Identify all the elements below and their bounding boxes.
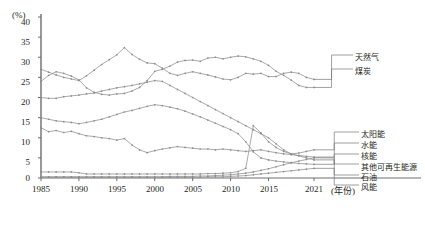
series-point xyxy=(161,81,163,83)
series-point xyxy=(177,89,179,91)
series-point xyxy=(207,176,209,178)
series-point xyxy=(177,146,179,148)
series-point xyxy=(283,73,285,75)
series-point xyxy=(86,75,88,77)
series-point xyxy=(146,152,148,154)
series-point xyxy=(78,79,80,81)
series-point xyxy=(215,56,217,58)
series-point xyxy=(252,58,254,60)
series-point xyxy=(192,113,194,115)
series-point xyxy=(154,173,156,175)
series-point xyxy=(48,97,50,99)
series-point xyxy=(108,116,110,118)
series-point xyxy=(101,90,103,92)
series-point xyxy=(161,68,163,70)
series-point xyxy=(268,172,270,174)
series-point xyxy=(222,78,224,80)
series-point xyxy=(275,143,277,145)
series-point xyxy=(146,80,148,82)
series-point xyxy=(124,93,126,95)
series-point xyxy=(169,73,171,75)
series-point xyxy=(230,174,232,176)
series-point xyxy=(93,120,95,122)
series-point xyxy=(169,106,171,108)
series-point xyxy=(260,173,262,175)
series-point xyxy=(161,148,163,150)
series-label-wind: 风能 xyxy=(361,181,377,192)
x-tick-1990: 1990 xyxy=(62,184,96,194)
series-point xyxy=(260,132,262,134)
series-point xyxy=(245,125,247,127)
series-point xyxy=(283,149,285,151)
series-point xyxy=(78,123,80,125)
series-point xyxy=(199,101,201,103)
series-line xyxy=(41,128,314,157)
series-point xyxy=(290,71,292,73)
series-point xyxy=(93,176,95,178)
series-point xyxy=(207,57,209,59)
series-point xyxy=(199,173,201,175)
series-point xyxy=(146,62,148,64)
series-point xyxy=(275,172,277,174)
series-point xyxy=(252,73,254,75)
series-point xyxy=(48,171,50,173)
series-point xyxy=(169,176,171,178)
series-point xyxy=(48,75,50,77)
series-point xyxy=(260,60,262,62)
series-point xyxy=(268,168,270,170)
y-tick-20: 20 xyxy=(8,97,30,107)
series-point xyxy=(93,69,95,71)
x-tick-2005: 2005 xyxy=(176,184,210,194)
series-point xyxy=(222,148,224,150)
series-point xyxy=(131,90,133,92)
series-point xyxy=(252,150,254,152)
legend-leader-line xyxy=(314,158,359,164)
series-point xyxy=(139,173,141,175)
series-point xyxy=(184,60,186,62)
series-point xyxy=(116,139,118,141)
series-point xyxy=(131,144,133,146)
series-point xyxy=(116,176,118,178)
series-point xyxy=(222,58,224,60)
series-point xyxy=(108,59,110,61)
series-point xyxy=(154,70,156,72)
series-point xyxy=(146,176,148,178)
x-tick-2000: 2000 xyxy=(138,184,172,194)
series-point xyxy=(192,176,194,178)
series-point xyxy=(55,171,57,173)
series-point xyxy=(252,171,254,173)
series-point xyxy=(237,150,239,152)
series-point xyxy=(252,174,254,176)
series-point xyxy=(245,175,247,177)
series-point xyxy=(306,157,308,159)
series-point xyxy=(131,54,133,56)
series-point xyxy=(222,172,224,174)
series-point xyxy=(154,150,156,152)
legend-leader-line xyxy=(314,154,359,164)
series-point xyxy=(40,127,42,129)
series-point xyxy=(298,73,300,75)
series-point xyxy=(63,171,65,173)
series-label-coal: 煤炭 xyxy=(355,65,371,76)
series-point xyxy=(298,155,300,157)
series-point xyxy=(306,168,308,170)
series-point xyxy=(268,64,270,66)
series-point xyxy=(275,166,277,168)
series-point xyxy=(139,58,141,60)
series-point xyxy=(177,75,179,77)
series-line xyxy=(41,126,314,174)
series-point xyxy=(215,149,217,151)
series-point xyxy=(290,162,292,164)
series-point xyxy=(199,116,201,118)
series-point xyxy=(108,176,110,178)
series-point xyxy=(48,71,50,73)
series-point xyxy=(237,55,239,57)
series-point xyxy=(124,176,126,178)
series-point xyxy=(230,176,232,178)
series-point xyxy=(40,117,42,119)
series-point xyxy=(252,125,254,127)
x-tick-1995: 1995 xyxy=(100,184,134,194)
series-point xyxy=(116,173,118,175)
x-tick-1985: 1985 xyxy=(24,184,58,194)
series-point xyxy=(275,76,277,78)
